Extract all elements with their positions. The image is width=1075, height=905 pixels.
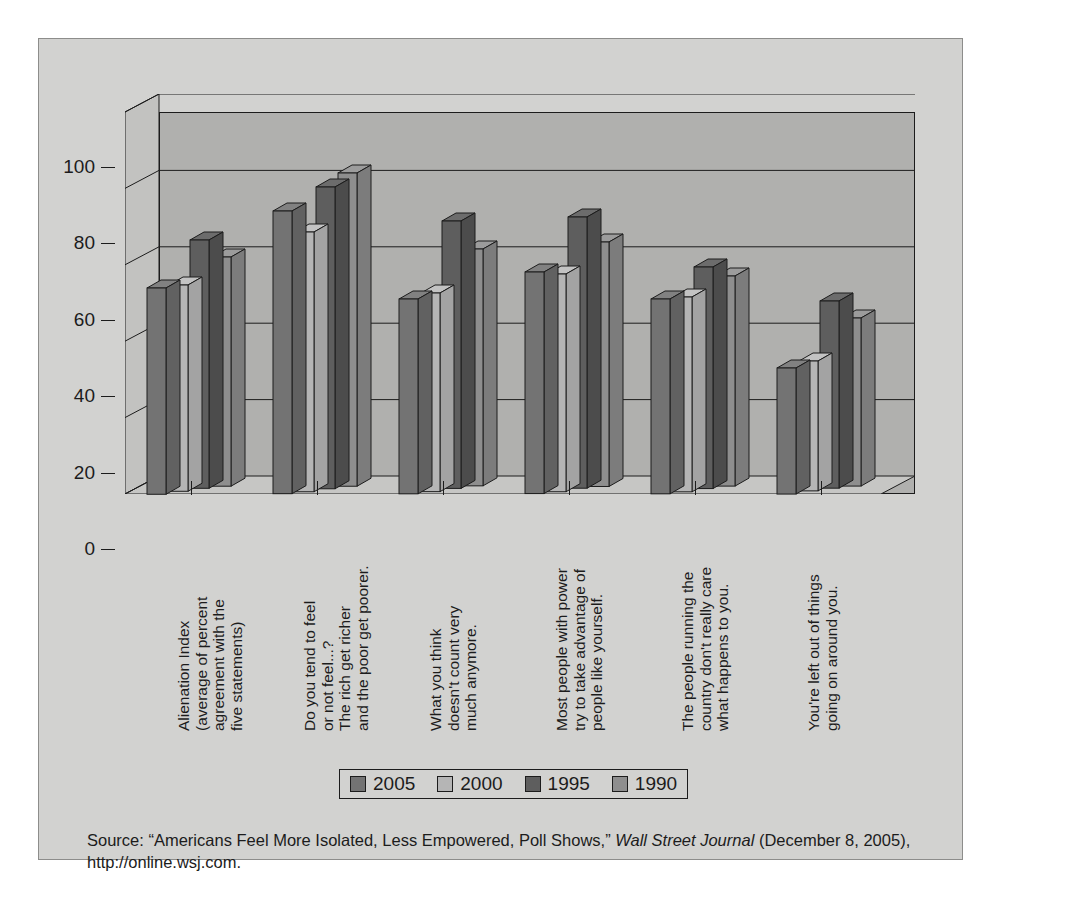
x-axis-tick-mark (569, 481, 570, 495)
y-axis-tick-label: 40 (49, 386, 95, 405)
bar (273, 211, 292, 494)
legend-swatch-icon (437, 776, 453, 792)
x-axis-tick-mark (443, 481, 444, 495)
y-axis-tick-mark (101, 243, 115, 244)
legend-item: 1995 (525, 774, 590, 793)
legend-swatch-icon (612, 776, 628, 792)
x-axis-labels: Alienation Index (average of percent agr… (125, 497, 925, 747)
bar (147, 288, 166, 494)
chart-page: 020406080100 Alienation Index (average o… (0, 0, 1075, 905)
x-axis-tick-mark (821, 481, 822, 495)
legend-swatch-icon (525, 776, 541, 792)
legend-label: 1990 (635, 774, 677, 793)
legend-label: 1995 (548, 774, 590, 793)
source-prefix: Source: “Americans Feel More Isolated, L… (87, 831, 615, 849)
x-axis-category-label: The people running the country don't rea… (679, 501, 732, 731)
bars-layer (125, 94, 915, 494)
y-axis-tick-mark (101, 167, 115, 168)
x-axis-tick-mark (695, 481, 696, 495)
source-publication: Wall Street Journal (615, 831, 754, 849)
plot-area (125, 94, 915, 494)
x-axis-category-label: Do you tend to feel or not feel...? The … (301, 501, 371, 731)
y-axis-tick-label: 100 (49, 157, 95, 176)
legend-label: 2005 (373, 774, 415, 793)
y-axis-tick-mark (101, 396, 115, 397)
y-axis-tick-label: 60 (49, 310, 95, 329)
bar (525, 272, 544, 494)
legend-item: 1990 (612, 774, 677, 793)
x-axis-tick-mark (317, 481, 318, 495)
bar (399, 299, 418, 494)
x-axis-category-label: Alienation Index (average of percent agr… (175, 501, 245, 731)
y-axis-tick-mark (101, 320, 115, 321)
y-axis-tick-label: 0 (49, 539, 95, 558)
source-caption: Source: “Americans Feel More Isolated, L… (87, 829, 927, 873)
x-axis-category-label: You're left out of things going on aroun… (805, 501, 840, 731)
legend: 2005200019951990 (339, 769, 688, 799)
y-axis-tick-label: 20 (49, 463, 95, 482)
x-axis-category-label: What you think doesn't count very much a… (427, 501, 480, 731)
y-axis-tick-label: 80 (49, 233, 95, 252)
legend-swatch-icon (350, 776, 366, 792)
x-axis-category-label: Most people with power try to take advan… (553, 501, 606, 731)
x-axis-tick-mark (191, 481, 192, 495)
legend-item: 2000 (437, 774, 502, 793)
figure-panel: 020406080100 Alienation Index (average o… (38, 38, 963, 860)
legend-item: 2005 (350, 774, 415, 793)
y-axis-tick-mark (101, 473, 115, 474)
y-axis: 020406080100 (49, 94, 125, 514)
bar (777, 368, 796, 494)
bar (651, 299, 670, 494)
y-axis-tick-mark (101, 549, 115, 550)
legend-label: 2000 (460, 774, 502, 793)
